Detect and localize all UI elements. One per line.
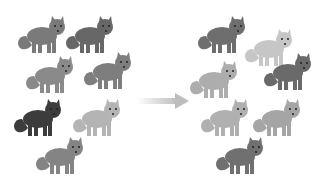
fox-icon: [24, 54, 76, 96]
fox-icon: [214, 135, 266, 177]
fox-icon: [71, 97, 123, 139]
fox-icon: [82, 50, 134, 92]
fox-icon: [16, 14, 68, 56]
right-arrow-icon: [137, 93, 189, 109]
fox-icon: [34, 135, 86, 177]
fox-icon: [199, 97, 251, 139]
fox-icon: [262, 51, 314, 93]
fox-icon: [196, 14, 248, 56]
fox-icon: [251, 97, 303, 139]
fox-icon: [12, 97, 64, 139]
fox-icon: [188, 59, 240, 101]
